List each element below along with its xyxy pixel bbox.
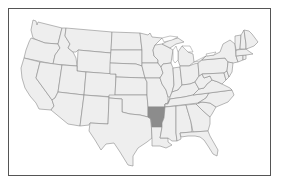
us-map <box>0 0 286 185</box>
state-rhode-island[interactable] <box>243 55 246 60</box>
state-wyoming[interactable] <box>77 50 111 74</box>
state-arizona[interactable] <box>51 92 84 126</box>
state-maine[interactable] <box>244 30 258 49</box>
state-new-mexico[interactable] <box>80 95 109 126</box>
state-kansas[interactable] <box>115 77 147 95</box>
state-montana[interactable] <box>65 28 112 53</box>
state-north-dakota[interactable] <box>111 32 142 50</box>
states-layer <box>21 20 258 166</box>
lake-michigan <box>173 46 178 63</box>
state-massachusetts[interactable] <box>236 49 253 56</box>
state-colorado[interactable] <box>84 72 116 97</box>
state-florida[interactable] <box>180 131 218 156</box>
